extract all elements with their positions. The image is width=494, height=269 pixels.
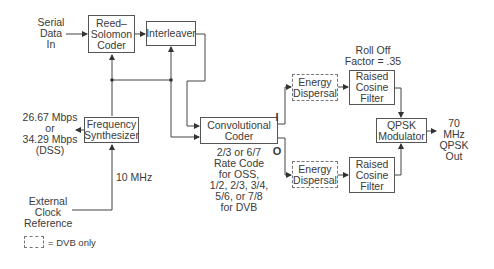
output-label: 70 MHz QPSK Out: [436, 118, 472, 162]
energy-dispersal-i-block: Energy Dispersal: [292, 74, 338, 101]
external-clock-label: External Clock Reference: [24, 196, 72, 229]
bitrate-label: 26.67 Mbps or 34.29 Mbps (DSS): [22, 112, 78, 156]
roll-off-label: Roll Off Factor = .35: [336, 45, 410, 67]
junction-dot: [110, 78, 114, 82]
junction-dot: [169, 78, 173, 82]
rc-i-to-qpsk-line: [395, 88, 401, 117]
convolutional-coder-block: Convolutional Coder: [200, 117, 278, 144]
interleaver-to-coder-line: [187, 34, 205, 126]
interleaver-block: Interleaver: [146, 21, 196, 46]
legend-dashed-box: [24, 236, 44, 248]
rc-q-to-qpsk-line: [395, 144, 401, 175]
q-branch-label: O: [271, 146, 283, 157]
frequency-synthesizer-block: Frequency Synthesizer: [84, 117, 139, 143]
ext-clock-line: [72, 145, 112, 210]
ten-mhz-label: 10 MHz: [116, 172, 156, 183]
legend-label: = DVB only: [48, 237, 108, 248]
energy-dispersal-q-block: Energy Dispersal: [292, 161, 338, 188]
qpsk-modulator-block: QPSK Modulator: [376, 118, 427, 143]
raised-cosine-i-block: Raised Cosine Filter: [349, 70, 395, 105]
serial-data-in-label: Serial Data In: [34, 17, 68, 50]
rate-code-label: 2/3 or 6/7 Rate Code for OSS, 1/2, 2/3, …: [205, 147, 273, 213]
i-branch-label: I: [272, 112, 282, 123]
raised-cosine-q-block: Raised Cosine Filter: [349, 157, 395, 193]
clock-to-coder-line: [171, 80, 199, 137]
reed-solomon-coder-block: Reed– Solomon Coder: [88, 15, 135, 53]
